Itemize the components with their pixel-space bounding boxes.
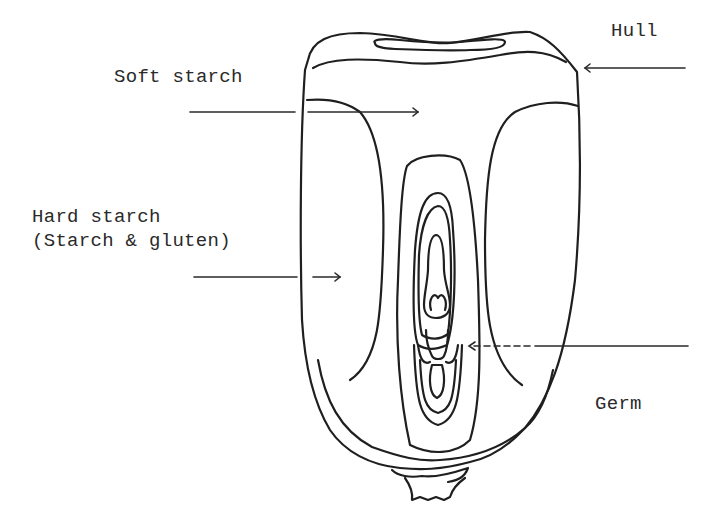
hull-outline [301,32,580,469]
hard-starch-left [307,100,383,380]
tip-cap [392,468,468,482]
kernel-illustration [0,0,715,506]
kernel-diagram: Hull Soft starch Hard starch (Starch & g… [0,0,715,506]
hull-top-slit [374,39,505,50]
germ-envelope [397,155,479,451]
